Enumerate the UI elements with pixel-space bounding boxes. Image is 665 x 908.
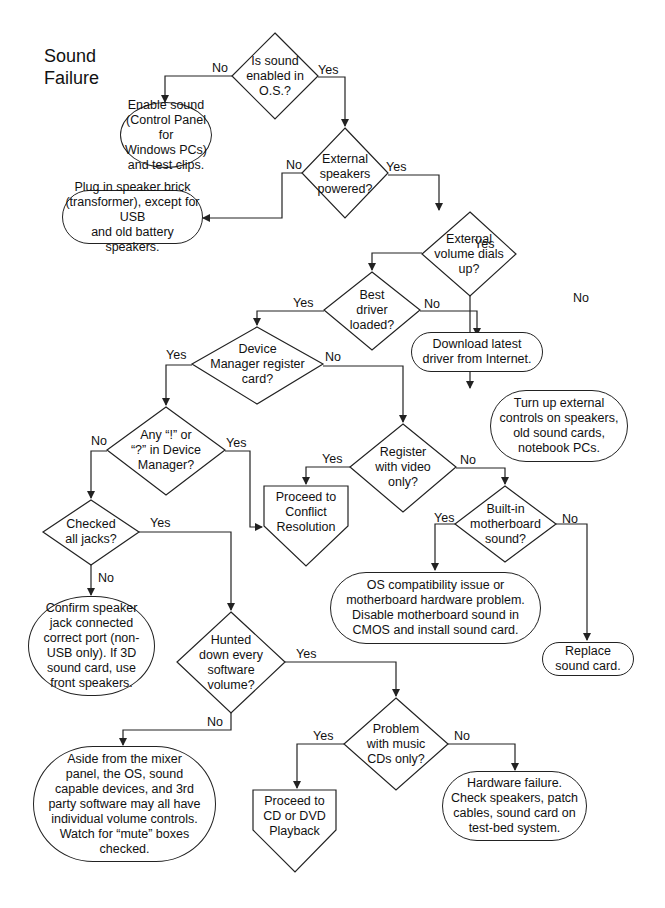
decision-music-cds: Problem with music CDs only? [344,720,448,768]
action-confirm-speaker-jack: Confirm speaker jack connected correct p… [28,596,155,696]
chart-title: Sound Failure [44,45,99,89]
action-software-volume-tips: Aside from the mixer panel, the OS, soun… [33,746,216,862]
offpage-cd-dvd-playback: Proceed to CD or DVD Playback [253,792,336,840]
label-d3-yes: Yes [474,237,494,251]
decision-sound-enabled: Is sound enabled in O.S.? [232,52,318,100]
label-d7-no: No [460,453,476,467]
label-d10-yes: Yes [296,647,316,661]
label-d11-no: No [454,729,470,743]
label-d11-yes: Yes [313,729,333,743]
label-d5-yes: Yes [166,348,186,362]
label-d8-no: No [562,512,578,526]
decision-volume-dials: External volume dials up? [422,230,516,278]
label-d1-yes: Yes [318,63,338,77]
label-d3-no: No [573,291,589,305]
decision-speakers-powered: External speakers powered? [302,150,388,198]
decision-device-manager: Device Manager register card? [192,340,323,388]
decision-register-video: Register with video only? [350,443,456,491]
label-d8-yes: Yes [434,511,454,525]
label-d4-no: No [424,297,440,311]
decision-built-in-sound: Built-in motherboard sound? [455,500,556,548]
action-plug-speaker-brick: Plug in speaker brick (transformer), exc… [62,190,203,244]
label-d5-no: No [325,350,341,364]
label-d10-no: No [207,715,223,729]
decision-checked-jacks: Checked all jacks? [43,516,139,548]
decision-best-driver: Best driver loaded? [324,286,420,334]
action-enable-sound: Enable sound (Control Panel for Windows … [120,102,212,168]
label-d1-no: No [212,61,228,75]
action-download-driver: Download latest driver from Internet. [411,332,543,372]
offpage-conflict-resolution: Proceed to Conflict Resolution [264,488,348,536]
label-d9-no: No [98,571,114,585]
action-turn-up-controls: Turn up external controls on speakers, o… [490,390,628,462]
label-d2-no: No [286,158,302,172]
decision-device-manager-marks: Any “!” or “?” in Device Manager? [107,426,225,474]
label-d7-yes: Yes [322,452,342,466]
label-d6-yes: Yes [226,436,246,450]
decision-software-volume: Hunted down every software volume? [177,632,285,694]
action-os-compatibility: OS compatibility issue or motherboard ha… [330,572,541,644]
label-d4-yes: Yes [293,296,313,310]
label-d2-yes: Yes [386,160,406,174]
action-replace-sound-card: Replace sound card. [542,642,634,676]
label-d9-yes: Yes [150,516,170,530]
label-d6-no: No [91,434,107,448]
action-hardware-failure: Hardware failure. Check speakers, patch … [442,771,587,841]
